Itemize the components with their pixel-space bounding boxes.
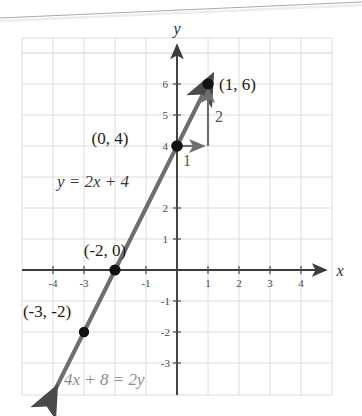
x-tick-label: -1 xyxy=(141,277,150,289)
x-tick-label: 1 xyxy=(205,277,211,289)
point-label-0-4: (0, 4) xyxy=(92,129,129,148)
y-tick-label: 1 xyxy=(163,233,169,245)
point-label-neg3-neg2: (-3, -2) xyxy=(23,302,71,321)
run-label: 1 xyxy=(183,152,191,169)
y-tick-label: 2 xyxy=(163,202,169,214)
rise-label: 2 xyxy=(215,108,223,125)
figure-page: -4 -3 -1 1 2 3 4 6 5 4 2 1 -1 -2 -3 y x xyxy=(0,0,362,416)
y-tick-label: -2 xyxy=(161,326,170,338)
y-tick-label: 4 xyxy=(163,140,169,152)
x-tick-label: 3 xyxy=(267,277,273,289)
equation-standard-label: 4x + 8 = 2y xyxy=(64,370,145,389)
x-axis-label: x xyxy=(335,262,343,279)
x-tick-label: 4 xyxy=(298,277,304,289)
point-marker xyxy=(171,140,183,152)
y-axis-label: y xyxy=(171,20,181,38)
equation-slope-intercept-label: y = 2x + 4 xyxy=(55,172,130,191)
point-marker xyxy=(79,327,89,337)
coordinate-plane-figure: -4 -3 -1 1 2 3 4 6 5 4 2 1 -1 -2 -3 y x xyxy=(0,0,362,416)
point-label-neg2-0: (-2, 0) xyxy=(84,241,126,260)
y-tick-label: 5 xyxy=(163,109,169,121)
scan-artifact-streak xyxy=(0,2,362,21)
point-label-1-6: (1, 6) xyxy=(219,75,256,94)
x-tick-label: -3 xyxy=(79,277,89,289)
y-tick-label: -3 xyxy=(161,357,171,369)
x-tick-label: 2 xyxy=(236,277,242,289)
point-marker xyxy=(202,78,213,89)
y-tick-label: 6 xyxy=(163,78,169,90)
point-marker xyxy=(109,264,120,275)
x-tick-label: -4 xyxy=(48,277,58,289)
y-tick-label: -1 xyxy=(161,295,170,307)
